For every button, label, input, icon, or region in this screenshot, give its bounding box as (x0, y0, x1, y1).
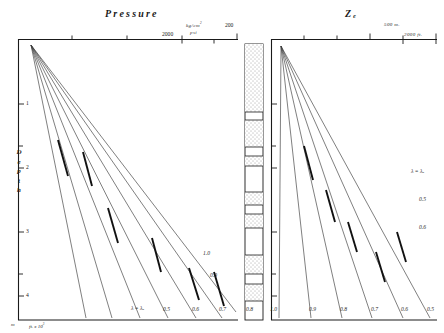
depth-unit-ft: ft. x 103 (29, 322, 44, 329)
pressure-label-06: 0.6 (192, 306, 199, 312)
ze-bottom-label-09: 0.9 (309, 306, 316, 312)
ze-title: Zₑ (345, 8, 358, 19)
ze-label-lambda0: λ = λₒ (411, 168, 424, 174)
depth-tick-4: 4 (26, 292, 29, 298)
depth-tick-1: 1 (26, 100, 29, 106)
depth-letter-h: h (14, 186, 24, 196)
ze-bottom-label-06: 0.6 (401, 306, 408, 312)
depth-letter-p: p (14, 167, 24, 177)
pressure-label-lambda0: λ = λₒ (131, 305, 144, 311)
ze-label-06: 0.6 (419, 224, 426, 230)
depth-tick-2: 2 (26, 164, 29, 170)
figure-canvas: Pressure Zₑ kg/cm2 psi 2000 200 500 m. 2… (0, 0, 444, 333)
depth-letter-d: D (14, 148, 24, 158)
pressure-label-08: 0.8 (246, 306, 253, 312)
pressure-tick-2000: 2000 (162, 31, 173, 37)
pressure-highlight-segments (58, 140, 224, 306)
depth-unit-m: m (11, 322, 15, 327)
depth-letter-e: e (14, 158, 24, 168)
ze-bottom-label-08: 0.8 (340, 306, 347, 312)
depth-axis-label: D e p t h (14, 148, 24, 196)
ze-bottom-label-10: 1.0 (270, 306, 277, 312)
ze-unit-feet: 2000 ft. (404, 32, 422, 37)
pressure-label-05: 0.5 (163, 306, 170, 312)
ze-label-05: 0.5 (419, 196, 426, 202)
pressure-unit-psi: psi (190, 30, 197, 35)
depth-tick-3: 3 (26, 228, 29, 234)
pressure-inline-label-10: 1.0 (203, 250, 210, 256)
pressure-title: Pressure (105, 8, 159, 19)
figure-svg (0, 0, 444, 333)
pressure-top-ticks (72, 34, 237, 44)
ze-highlight-segments (304, 146, 406, 282)
depth-ticks-right (272, 104, 278, 296)
pressure-inline-label-09: 0.9 (210, 272, 217, 278)
ze-bottom-label-07: 0.7 (371, 306, 378, 312)
ze-bottom-label-05: 0.5 (427, 306, 434, 312)
lithology-column (245, 44, 263, 320)
pressure-panel (18, 34, 238, 321)
depth-letter-t: t (14, 177, 24, 187)
pressure-label-07: 0.7 (219, 306, 226, 312)
ze-panel (271, 34, 437, 321)
ze-lambda-lines (279, 46, 430, 318)
pressure-unit-kgcm2: kg/cm2 (186, 21, 202, 28)
pressure-lambda-lines (31, 45, 236, 318)
depth-ticks-left (19, 104, 25, 296)
ze-unit-meters: 500 m. (384, 22, 400, 27)
pressure-tick-200: 200 (225, 22, 233, 28)
